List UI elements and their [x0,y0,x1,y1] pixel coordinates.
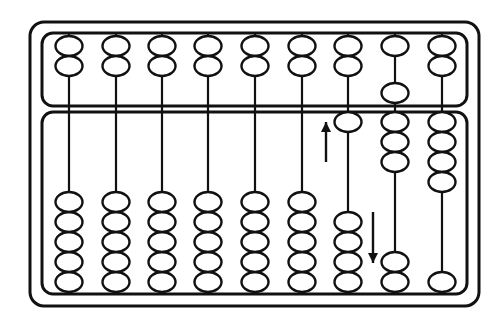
bead[interactable] [56,36,83,56]
bead[interactable] [335,252,362,272]
bead[interactable] [195,232,222,252]
bead[interactable] [195,192,222,212]
bead[interactable] [335,56,362,76]
bead[interactable] [56,192,83,212]
bead[interactable] [335,212,362,232]
bead[interactable] [289,232,316,252]
bead[interactable] [56,232,83,252]
bead[interactable] [289,272,316,292]
bead[interactable] [289,212,316,232]
bead[interactable] [242,36,269,56]
bead[interactable] [382,36,409,56]
bead[interactable] [103,192,130,212]
bead[interactable] [149,212,176,232]
bead[interactable] [56,252,83,272]
bead[interactable] [382,272,409,292]
bead[interactable] [429,272,456,292]
bead[interactable] [429,152,456,172]
bead[interactable] [335,272,362,292]
bead[interactable] [56,272,83,292]
bead[interactable] [103,36,130,56]
bead[interactable] [382,252,409,272]
bead[interactable] [103,212,130,232]
abacus-figure [0,0,503,326]
bead[interactable] [335,112,362,132]
bead[interactable] [429,172,456,192]
bead[interactable] [103,272,130,292]
bead[interactable] [149,192,176,212]
bead[interactable] [242,56,269,76]
bead[interactable] [149,232,176,252]
bead[interactable] [382,112,409,132]
bead[interactable] [429,112,456,132]
bead[interactable] [56,212,83,232]
bead[interactable] [149,56,176,76]
bead[interactable] [149,252,176,272]
bead[interactable] [103,232,130,252]
bead[interactable] [335,36,362,56]
bead[interactable] [56,56,83,76]
bead[interactable] [242,232,269,252]
abacus-canvas [0,0,503,326]
bead[interactable] [429,36,456,56]
bead[interactable] [242,272,269,292]
bead[interactable] [289,192,316,212]
bead[interactable] [195,56,222,76]
bead[interactable] [242,192,269,212]
bead[interactable] [195,252,222,272]
bead[interactable] [195,272,222,292]
bead[interactable] [195,36,222,56]
bead[interactable] [382,152,409,172]
bead[interactable] [335,232,362,252]
bead[interactable] [382,132,409,152]
bead[interactable] [242,252,269,272]
bead[interactable] [103,56,130,76]
bead[interactable] [289,56,316,76]
bead[interactable] [242,212,269,232]
bead[interactable] [103,252,130,272]
bead[interactable] [149,36,176,56]
bead[interactable] [382,83,409,103]
bead[interactable] [289,36,316,56]
bead[interactable] [429,132,456,152]
bead[interactable] [149,272,176,292]
bead[interactable] [195,212,222,232]
bead[interactable] [289,252,316,272]
bead[interactable] [429,56,456,76]
